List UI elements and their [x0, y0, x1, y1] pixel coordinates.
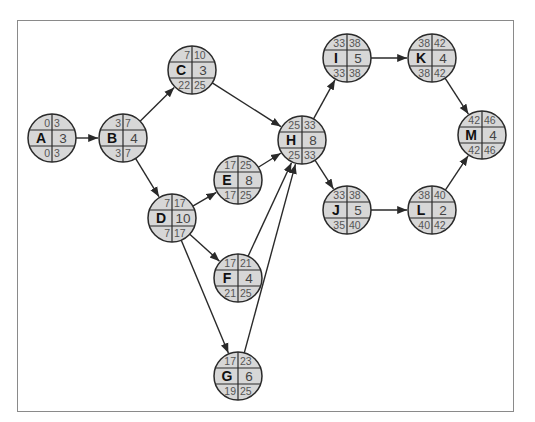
- late-finish: 33: [304, 149, 316, 161]
- early-finish: 38: [349, 37, 361, 49]
- edge-l-m: [445, 156, 468, 190]
- activity-label: H: [286, 132, 296, 148]
- node-k: 3842K43842: [408, 34, 456, 82]
- activity-label: J: [332, 202, 340, 218]
- duration: 6: [245, 369, 253, 384]
- node-f: 1721F42125: [214, 254, 262, 302]
- node-m: 4246M44246: [458, 111, 506, 159]
- edge-k-m: [445, 78, 468, 114]
- late-start: 19: [224, 385, 236, 397]
- duration: 8: [309, 133, 317, 148]
- late-finish: 7: [125, 147, 131, 159]
- activity-label: L: [417, 202, 426, 218]
- early-start: 0: [44, 117, 50, 129]
- late-finish: 25: [240, 189, 252, 201]
- activity-label: D: [156, 210, 166, 226]
- early-finish: 21: [240, 257, 252, 269]
- node-j: 3338J53540: [323, 186, 371, 234]
- early-start: 7: [164, 197, 170, 209]
- activity-label: A: [36, 130, 46, 146]
- late-finish: 3: [54, 147, 60, 159]
- duration: 3: [199, 63, 207, 78]
- activity-label: I: [334, 50, 338, 66]
- edge-b-d: [136, 158, 159, 196]
- node-i: 3338I53338: [323, 34, 371, 82]
- node-g: 1723G61925: [214, 352, 262, 400]
- late-finish: 38: [349, 67, 361, 79]
- late-finish: 25: [240, 287, 252, 299]
- early-finish: 25: [240, 159, 252, 171]
- edge-c-h: [212, 83, 281, 127]
- early-finish: 42: [434, 37, 446, 49]
- early-start: 38: [418, 189, 430, 201]
- activity-label: C: [176, 62, 186, 78]
- activity-label: B: [107, 130, 117, 146]
- duration: 3: [59, 131, 67, 146]
- duration: 5: [354, 203, 362, 218]
- node-e: 1725E81725: [214, 156, 262, 204]
- network-diagram: 03A30337B437710C32225717D107171725E81725…: [0, 0, 535, 422]
- early-start: 17: [224, 159, 236, 171]
- late-finish: 25: [240, 385, 252, 397]
- early-finish: 10: [194, 49, 206, 61]
- early-finish: 33: [304, 119, 316, 131]
- late-finish: 42: [434, 67, 446, 79]
- duration: 4: [489, 128, 497, 143]
- early-finish: 23: [240, 355, 252, 367]
- node-l: 3840L24042: [408, 186, 456, 234]
- duration: 2: [439, 203, 447, 218]
- edge-b-c: [140, 88, 174, 122]
- edge-h-i: [314, 80, 335, 119]
- late-start: 38: [418, 67, 430, 79]
- early-start: 7: [184, 49, 190, 61]
- late-finish: 25: [194, 79, 206, 91]
- node-d: 717D10717: [148, 194, 196, 242]
- late-start: 22: [178, 79, 190, 91]
- edge-e-h: [258, 153, 280, 167]
- early-start: 33: [333, 37, 345, 49]
- late-start: 25: [288, 149, 300, 161]
- early-start: 38: [418, 37, 430, 49]
- early-start: 17: [224, 257, 236, 269]
- edge-h-j: [315, 160, 334, 189]
- early-start: 3: [115, 117, 121, 129]
- late-finish: 17: [174, 227, 186, 239]
- early-finish: 40: [434, 189, 446, 201]
- node-a: 03A303: [28, 114, 76, 162]
- edge-d-f: [190, 234, 220, 261]
- duration: 5: [354, 51, 362, 66]
- node-c: 710C32225: [168, 46, 216, 94]
- early-finish: 3: [54, 117, 60, 129]
- duration: 4: [439, 51, 447, 66]
- early-start: 42: [468, 114, 480, 126]
- early-start: 33: [333, 189, 345, 201]
- early-start: 17: [224, 355, 236, 367]
- late-finish: 40: [349, 219, 361, 231]
- late-finish: 42: [434, 219, 446, 231]
- late-start: 17: [224, 189, 236, 201]
- late-start: 3: [115, 147, 121, 159]
- activity-label: K: [416, 50, 426, 66]
- duration: 10: [175, 211, 190, 226]
- late-start: 42: [468, 144, 480, 156]
- late-start: 21: [224, 287, 236, 299]
- late-finish: 46: [484, 144, 496, 156]
- early-finish: 7: [125, 117, 131, 129]
- late-start: 35: [333, 219, 345, 231]
- late-start: 7: [164, 227, 170, 239]
- edge-d-e: [193, 192, 217, 206]
- duration: 4: [130, 131, 138, 146]
- late-start: 40: [418, 219, 430, 231]
- activity-label: G: [222, 368, 233, 384]
- activity-label: M: [465, 127, 477, 143]
- activity-label: F: [223, 270, 232, 286]
- late-start: 0: [44, 147, 50, 159]
- early-finish: 17: [174, 197, 186, 209]
- early-finish: 38: [349, 189, 361, 201]
- activity-label: E: [222, 172, 231, 188]
- edge-d-g: [181, 240, 228, 353]
- node-b: 37B437: [99, 114, 147, 162]
- node-h: 2533H82533: [278, 116, 326, 164]
- early-finish: 46: [484, 114, 496, 126]
- late-start: 33: [333, 67, 345, 79]
